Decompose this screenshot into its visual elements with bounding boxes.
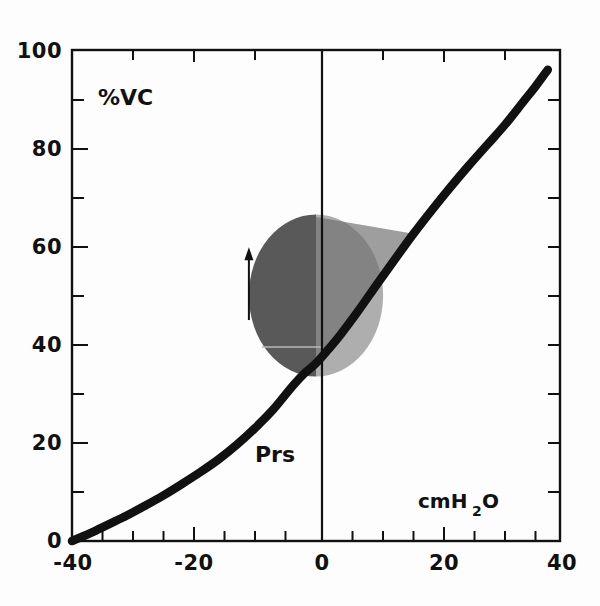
- x-tick-label-20: 20: [429, 551, 459, 575]
- y-tick-label-20: 20: [32, 431, 62, 455]
- x-axis-unit-label: cmH 2 O: [418, 489, 499, 519]
- x-tick-label-neg40: -40: [53, 551, 92, 575]
- curve-label-prs: Prs: [255, 442, 295, 467]
- y-tick-label-60: 60: [32, 235, 62, 259]
- y-tick-label-100: 100: [17, 39, 62, 63]
- x-axis-unit-main: cmH: [418, 489, 467, 513]
- y-axis-right-ticks: [548, 100, 560, 492]
- y-tick-label-40: 40: [32, 333, 62, 357]
- x-axis-unit-tail: O: [482, 489, 499, 513]
- x-tick-label-neg20: -20: [174, 551, 213, 575]
- x-tick-label-0: 0: [314, 551, 329, 575]
- x-axis-top-ticks: [133, 50, 505, 62]
- y-axis-unit-label: %VC: [98, 85, 153, 110]
- pressure-volume-chart: -40 -20 0 20 40 0 20 40 60 80 100 %VC Pr…: [0, 0, 600, 606]
- y-axis-ticks: [72, 100, 88, 492]
- x-tick-label-40: 40: [547, 551, 577, 575]
- y-tick-label-80: 80: [32, 137, 62, 161]
- y-tick-label-0: 0: [47, 529, 62, 553]
- x-axis-unit-subscript: 2: [472, 503, 482, 519]
- chart-figure: -40 -20 0 20 40 0 20 40 60 80 100 %VC Pr…: [0, 0, 600, 606]
- x-axis-minor-ticks: [103, 527, 536, 541]
- shaded-region-tidal-disc: [249, 214, 383, 376]
